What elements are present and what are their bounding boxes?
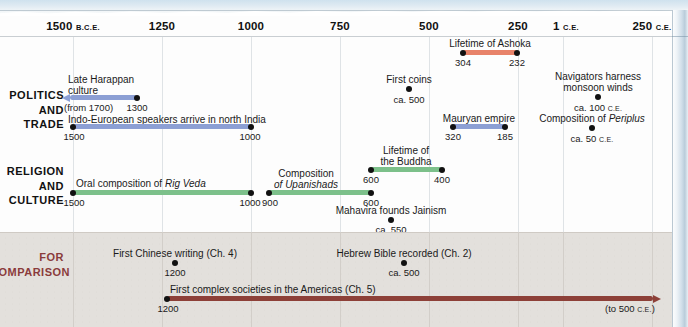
event-label-line2: monsoon winds	[563, 82, 632, 94]
axis-tick-250-bce: 250	[508, 20, 528, 32]
event-date: ca. 500	[393, 94, 424, 105]
event-start-date: 1200	[157, 303, 178, 314]
event-end-dot	[248, 124, 254, 130]
event-bar	[371, 167, 442, 172]
event-label-line1: Lifetime of	[383, 145, 429, 157]
event-start-date: 1500	[63, 197, 84, 208]
event-date: ca. 500	[388, 267, 419, 278]
event-bar	[269, 190, 371, 195]
event-end-dot	[514, 50, 520, 56]
event-start-dot	[266, 190, 272, 196]
event-date: ca. 100 C.E.	[574, 102, 622, 113]
event-end-date: 1000	[239, 131, 260, 142]
event-date: 1200	[164, 267, 185, 278]
event-bar	[73, 190, 251, 195]
axis-baseline	[0, 36, 672, 37]
event-label: Hebrew Bible recorded (Ch. 2)	[336, 248, 471, 260]
event-bar	[453, 124, 505, 129]
event-bar	[167, 296, 653, 301]
axis-tick-1250: 1250	[149, 20, 175, 32]
event-label: First Chinese writing (Ch. 4)	[113, 248, 237, 260]
event-start-date: 900	[262, 197, 278, 208]
row-label-religion-and-culture: RELIGION AND CULTURE	[0, 164, 64, 208]
timeline-figure: 1500 B.C.E. 1250 1000 750 500 250 1 C.E.…	[0, 0, 688, 327]
event-label: Lifetime of Ashoka	[449, 38, 531, 50]
event-end-dot	[368, 190, 374, 196]
continues-right-arrow-icon	[653, 295, 661, 303]
page-curl-fold-line	[672, 10, 673, 327]
event-end-date: 232	[509, 57, 525, 68]
event-date: ca. 50 C.E.	[571, 133, 614, 144]
event-end-date: 1300	[126, 102, 147, 113]
event-label: Oral composition of Rig Veda	[76, 178, 206, 190]
event-dot	[401, 260, 407, 266]
event-start-dot	[450, 124, 456, 130]
event-start-dot	[70, 124, 76, 130]
axis-tick-1-ce: 1 C.E.	[553, 20, 579, 32]
event-start-date: 320	[445, 131, 461, 142]
event-label-line1: Composition	[278, 168, 334, 180]
event-dot	[406, 86, 412, 92]
event-label-line2: the Buddha	[380, 156, 431, 168]
event-bar	[70, 95, 137, 100]
axis-tick-250-ce: 250 C.E.	[633, 20, 672, 32]
event-start-dot	[70, 190, 76, 196]
event-dot	[388, 217, 394, 223]
row-label-for-comparison: FOR COMPARISON	[0, 250, 64, 279]
event-dot	[172, 260, 178, 266]
event-end-date: 1000	[239, 197, 260, 208]
event-end-dot	[134, 95, 140, 101]
axis-tick-500: 500	[419, 20, 439, 32]
event-label-line1: Navigators harness	[555, 71, 641, 83]
event-label: First complex societies in the Americas …	[170, 284, 376, 296]
event-end-dot	[502, 124, 508, 130]
event-bar	[73, 124, 251, 129]
event-end-date: 400	[434, 174, 450, 185]
event-bar	[463, 50, 517, 55]
axis-tick-1000: 1000	[238, 20, 264, 32]
event-dot	[595, 94, 601, 100]
event-start-dot	[164, 296, 170, 302]
for-comparison-band-top-rule	[0, 232, 688, 233]
event-label: Mahavira founds Jainism	[336, 205, 447, 217]
event-start-dot	[368, 167, 374, 173]
page-curl	[672, 10, 688, 327]
event-start-dot	[460, 50, 466, 56]
event-end-dot	[439, 167, 445, 173]
event-end-date: (to 500 C.E.)	[605, 303, 655, 314]
event-end-date: 185	[497, 131, 513, 142]
for-comparison-band-texture	[0, 232, 688, 327]
axis-tick-750: 750	[330, 20, 350, 32]
event-start-date: 304	[455, 57, 471, 68]
event-start-date: (from 1700)	[64, 102, 113, 113]
event-start-date: 600	[363, 174, 379, 185]
event-label-line1: Late Harappan	[68, 74, 134, 86]
event-start-date: 1500	[63, 131, 84, 142]
page-curl-axis-rule	[672, 36, 688, 37]
axis-tick-1500-bce: 1500 B.C.E.	[46, 20, 100, 32]
row-label-politics-and-trade: POLITICS AND TRADE	[0, 88, 64, 132]
event-dot	[589, 125, 595, 131]
event-label-line2: of Upanishads	[274, 179, 338, 191]
event-label: Composition of Periplus	[539, 113, 645, 125]
torn-paper-rule	[0, 10, 688, 11]
continues-left-arrow-icon	[62, 94, 70, 102]
event-end-dot	[248, 190, 254, 196]
event-label: First coins	[386, 74, 432, 86]
